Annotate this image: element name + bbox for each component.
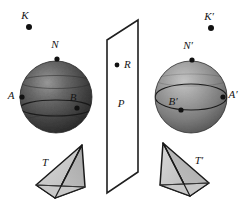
sphere-left-group [19,56,92,133]
label-K-prime: K′ [203,10,214,22]
label-A-prime: A′ [227,88,238,100]
point-B [74,105,79,110]
sphere-left [20,61,92,133]
label-T: T [42,156,49,168]
label-P: P [117,97,125,109]
sphere-right [155,61,227,133]
point-A-prime [220,94,225,99]
label-A: A [7,89,15,101]
label-N: N [50,38,59,50]
point-R [115,63,120,68]
label-T-prime: T′ [195,154,204,166]
tetrahedron-T [36,145,85,198]
point-B-prime [178,107,183,112]
geometry-figure: K K′ N N′ A A′ B B′ R P T T′ [0,0,249,216]
figure-canvas: K K′ N N′ A A′ B B′ R P T T′ [0,0,249,216]
point-K-prime [208,25,214,31]
tetrahedron-T-prime [160,143,209,196]
point-A [19,94,24,99]
sphere-right-group [155,57,227,133]
label-N-prime: N′ [182,39,193,51]
point-K [26,24,32,30]
label-B-prime: B′ [168,95,178,107]
point-N [54,56,59,61]
label-B: B [70,91,77,103]
label-K: K [20,9,29,21]
point-N-prime [189,57,194,62]
label-R: R [123,58,131,70]
